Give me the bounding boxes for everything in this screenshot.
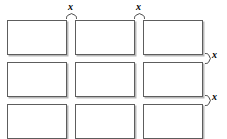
rectangle-grid-diagram: x x x x [0, 0, 227, 139]
grid-cell-r2c1 [7, 62, 67, 97]
grid-cell-r3c3 [143, 104, 203, 139]
dim-label-gap-rows-2-3: x [212, 92, 217, 102]
grid-cell-r2c3 [143, 62, 203, 97]
grid-cell-r1c3 [143, 20, 203, 55]
dim-label-gap-columns-1-2: x [68, 2, 73, 12]
grid-cell-r2c2 [75, 62, 135, 97]
grid-cell-r3c1 [7, 104, 67, 139]
grid-cell-r3c2 [75, 104, 135, 139]
brace-gap-columns-1-2-icon [66, 13, 77, 19]
brace-gap-rows-1-2-icon [205, 53, 211, 64]
dim-label-gap-rows-1-2: x [212, 50, 217, 60]
brace-gap-rows-2-3-icon [205, 95, 211, 106]
dim-label-gap-columns-2-3: x [136, 2, 141, 12]
grid-cell-r1c1 [7, 20, 67, 55]
grid-cell-r1c2 [75, 20, 135, 55]
brace-gap-columns-2-3-icon [134, 13, 145, 19]
